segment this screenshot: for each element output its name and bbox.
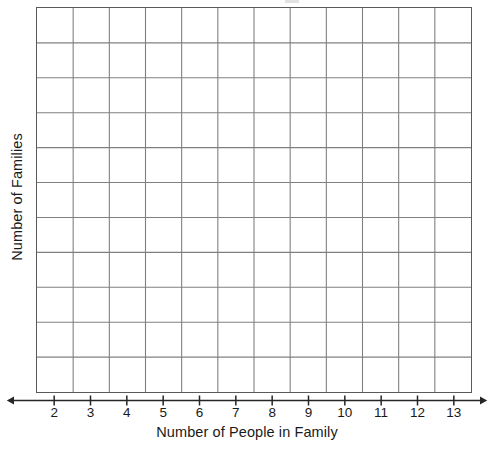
x-axis-tick-label: 12	[399, 404, 435, 422]
x-axis-tick-label: 8	[254, 404, 290, 422]
x-axis-tick-label: 3	[72, 404, 108, 422]
x-axis-tick-label: 2	[36, 404, 72, 422]
x-axis-tick-labels: 2345678910111213	[36, 404, 472, 422]
x-axis-tick-label: 9	[290, 404, 326, 422]
x-axis-tick-label: 5	[145, 404, 181, 422]
x-axis-title-label: Number of People in Family	[156, 424, 338, 440]
x-axis-title: Number of People in Family	[0, 424, 494, 440]
x-axis-tick-label: 6	[181, 404, 217, 422]
chart-container: Number of Families 2345678910111213 Numb	[0, 0, 494, 454]
x-axis-tick-label: 13	[436, 404, 472, 422]
vertical-gridlines	[73, 8, 435, 392]
x-axis-tick-label: 7	[218, 404, 254, 422]
x-axis-tick-label: 10	[327, 404, 363, 422]
y-axis-title-label: Number of Families	[9, 133, 25, 261]
x-axis-tick-label: 4	[109, 404, 145, 422]
x-axis-tick-label: 11	[363, 404, 399, 422]
scan-artifact	[285, 0, 299, 3]
grid-lines	[37, 8, 471, 392]
plot-grid	[36, 7, 472, 393]
y-axis-title: Number of Families	[0, 0, 34, 394]
